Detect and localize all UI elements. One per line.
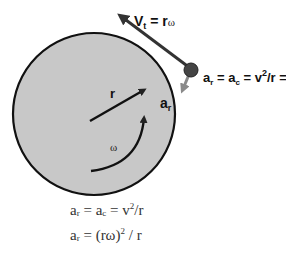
equation-omega-form: ar = (rω)2 / r bbox=[70, 226, 142, 244]
omega-label: ω bbox=[110, 141, 117, 153]
equation-centripetal: ar = ac = v2/r bbox=[70, 201, 143, 219]
radius-label: r bbox=[110, 86, 115, 101]
circular-motion-diagram: Vt = rω ar = ac = v2/r =r ω2 ar r ω ar =… bbox=[0, 0, 286, 255]
velocity-label: Vt = rω bbox=[134, 13, 175, 31]
acceleration-formula-label: ar = ac = v2/r =r ω2 bbox=[203, 65, 286, 87]
point-mass bbox=[184, 63, 198, 77]
